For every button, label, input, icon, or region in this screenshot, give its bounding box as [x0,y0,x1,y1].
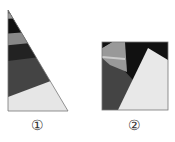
figures-canvas [0,0,175,142]
triangle-figure [0,0,80,120]
figure-1-label: ① [31,118,44,132]
figure-2-label: ② [128,118,141,132]
square-figure [102,42,168,110]
